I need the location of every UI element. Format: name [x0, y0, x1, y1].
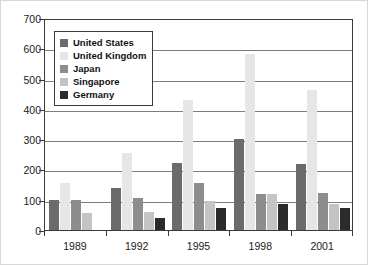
y-tick-label: 500	[5, 74, 41, 85]
bar	[278, 204, 288, 230]
legend-swatch-icon	[60, 91, 68, 99]
y-tick-label: 700	[5, 14, 41, 25]
bar	[60, 183, 70, 230]
legend-item-united-kingdom: United Kingdom	[60, 49, 147, 62]
legend-label: United Kingdom	[73, 51, 146, 61]
bar	[267, 194, 277, 230]
bar	[234, 139, 244, 230]
bar	[307, 90, 317, 230]
x-tick-mark	[229, 231, 230, 236]
x-tick-mark	[44, 231, 45, 236]
bar-group	[230, 20, 292, 230]
legend-swatch-icon	[60, 78, 68, 86]
bar-chart-figure: 0100200300400500600700 19891992199519982…	[0, 0, 368, 265]
legend-label: Singapore	[73, 77, 119, 87]
x-tick-label: 1992	[125, 240, 148, 252]
bar	[329, 204, 339, 230]
y-tick-label: 0	[5, 226, 41, 237]
bar	[256, 194, 266, 230]
bar-group	[292, 20, 354, 230]
legend-label: United States	[73, 38, 134, 48]
y-tick-label: 600	[5, 44, 41, 55]
legend-label: Japan	[73, 64, 100, 74]
legend-item-singapore: Singapore	[60, 75, 147, 88]
bar	[183, 100, 193, 230]
bar	[111, 188, 121, 230]
bar	[122, 153, 132, 230]
legend: United StatesUnited KingdomJapanSingapor…	[54, 31, 153, 106]
legend-item-united-states: United States	[60, 36, 147, 49]
x-tick-label: 1998	[249, 240, 272, 252]
bar	[144, 212, 154, 230]
y-axis: 0100200300400500600700	[1, 19, 41, 231]
x-tick-mark	[106, 231, 107, 236]
bar	[49, 200, 59, 230]
legend-swatch-icon	[60, 52, 68, 60]
bar	[340, 208, 350, 230]
x-tick-mark	[352, 231, 353, 236]
x-tick-label: 1989	[63, 240, 86, 252]
bar	[216, 208, 226, 230]
bar-group	[169, 20, 231, 230]
x-tick-mark	[168, 231, 169, 236]
bar	[155, 218, 165, 230]
x-tick-label: 1995	[187, 240, 210, 252]
legend-item-japan: Japan	[60, 62, 147, 75]
bar	[296, 164, 306, 230]
legend-item-germany: Germany	[60, 88, 147, 101]
bar	[82, 213, 92, 230]
y-tick-label: 100	[5, 195, 41, 206]
legend-swatch-icon	[60, 65, 68, 73]
bar	[194, 183, 204, 230]
bar	[133, 198, 143, 230]
legend-swatch-icon	[60, 39, 68, 47]
legend-label: Germany	[73, 90, 114, 100]
x-tick-mark	[291, 231, 292, 236]
y-tick-label: 300	[5, 135, 41, 146]
bar	[318, 193, 328, 230]
y-tick-label: 400	[5, 105, 41, 116]
bar	[205, 201, 215, 230]
x-axis: 19891992199519982001	[44, 231, 353, 261]
y-tick-label: 200	[5, 165, 41, 176]
x-tick-label: 2001	[310, 240, 333, 252]
bar	[172, 163, 182, 230]
bar	[245, 54, 255, 230]
bar	[71, 200, 81, 230]
